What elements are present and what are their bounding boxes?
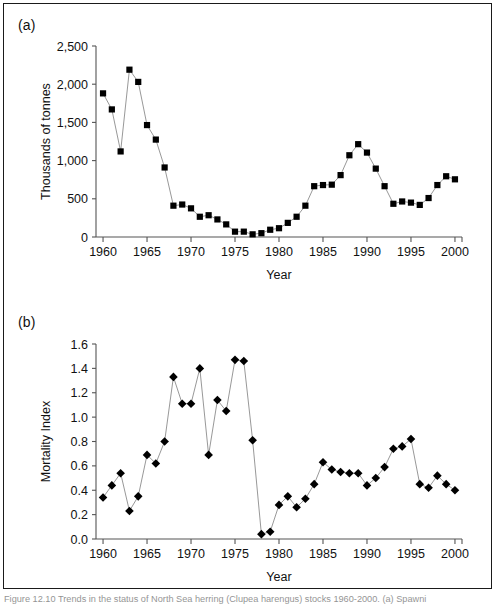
data-point-marker	[267, 227, 273, 233]
x-tick-label: 1985	[309, 547, 337, 561]
data-point-marker	[276, 225, 282, 231]
y-tick-label: 2,500	[57, 40, 88, 54]
data-point-marker	[417, 202, 423, 208]
data-point-marker	[424, 484, 433, 493]
data-point-marker	[345, 469, 354, 478]
data-point-marker	[257, 530, 266, 539]
y-tick-label: 1,000	[57, 154, 88, 168]
y-tick-label: 0.4	[71, 484, 88, 498]
y-tick-label: 1.6	[71, 338, 88, 352]
data-point-marker	[364, 149, 370, 155]
data-point-marker	[99, 493, 108, 502]
data-point-marker	[302, 203, 308, 209]
y-tick-label: 1,500	[57, 116, 88, 130]
data-point-marker	[425, 195, 431, 201]
data-point-marker	[346, 152, 352, 158]
y-tick-label: 0.2	[71, 508, 88, 522]
data-point-marker	[214, 216, 220, 222]
data-point-marker	[399, 198, 405, 204]
y-tick-label: 0.0	[71, 533, 88, 547]
data-point-marker	[179, 201, 185, 207]
data-point-marker	[390, 201, 396, 207]
data-point-marker	[213, 396, 222, 405]
x-tick-label: 1995	[397, 245, 425, 259]
data-point-marker	[135, 79, 141, 85]
data-point-marker	[294, 214, 300, 220]
data-point-marker	[126, 67, 132, 73]
x-tick-label: 1990	[353, 245, 381, 259]
data-point-marker	[231, 356, 240, 365]
x-tick-label: 1970	[177, 547, 205, 561]
data-point-marker	[134, 492, 143, 501]
data-point-marker	[116, 469, 125, 478]
data-point-marker	[222, 407, 231, 416]
x-tick-label: 2000	[441, 245, 469, 259]
data-point-marker	[354, 469, 363, 478]
data-point-marker	[258, 230, 264, 236]
data-point-marker	[408, 200, 414, 206]
data-point-marker	[223, 221, 229, 227]
x-tick-label: 1990	[353, 547, 381, 561]
figure-frame: (a) 05001,0001,5002,0002,500196019651970…	[3, 3, 492, 589]
data-point-marker	[100, 90, 106, 96]
chart-panel-b: (b) 0.00.20.40.60.81.01.21.41.6196019651…	[4, 300, 493, 588]
data-point-marker	[109, 106, 115, 112]
y-tick-label: 500	[67, 192, 88, 206]
data-point-marker	[187, 399, 196, 408]
data-point-marker	[248, 436, 257, 445]
x-tick-label: 1980	[265, 245, 293, 259]
x-tick-label: 1965	[133, 547, 161, 561]
data-point-marker	[329, 182, 335, 188]
x-axis-title: Year	[266, 570, 291, 584]
data-point-marker	[160, 437, 169, 446]
x-tick-label: 1975	[221, 547, 249, 561]
figure-caption: Figure 12.10 Trends in the status of Nor…	[4, 594, 497, 607]
data-point-marker	[311, 183, 317, 189]
data-point-marker	[380, 463, 389, 472]
x-tick-label: 1995	[397, 547, 425, 561]
data-point-marker	[232, 229, 238, 235]
y-axis-title: Thousands of tonnes	[39, 83, 53, 200]
data-point-marker	[118, 148, 124, 154]
data-point-marker	[415, 480, 424, 489]
data-point-marker	[108, 481, 117, 490]
data-point-marker	[196, 364, 205, 373]
x-tick-label: 2000	[441, 547, 469, 561]
mortality-index-chart: 0.00.20.40.60.81.01.21.41.61960196519701…	[4, 300, 493, 588]
data-point-marker	[169, 373, 178, 382]
y-tick-label: 1.2	[71, 386, 88, 400]
data-point-marker	[197, 214, 203, 220]
y-tick-label: 0	[81, 231, 88, 245]
data-point-marker	[355, 141, 361, 147]
data-point-marker	[434, 182, 440, 188]
data-point-marker	[206, 212, 212, 218]
y-tick-label: 2,000	[57, 78, 88, 92]
data-point-marker	[389, 445, 398, 454]
data-point-marker	[381, 183, 387, 189]
data-point-marker	[241, 229, 247, 235]
y-axis-title: Mortality Index	[39, 400, 53, 482]
data-point-marker	[451, 486, 460, 495]
data-point-marker	[285, 220, 291, 226]
series-line	[103, 70, 455, 235]
data-point-marker	[125, 507, 134, 516]
x-tick-label: 1965	[133, 245, 161, 259]
chart-panel-a: (a) 05001,0001,5002,0002,500196019651970…	[4, 4, 493, 300]
x-tick-label: 1960	[89, 547, 117, 561]
y-tick-label: 0.6	[71, 459, 88, 473]
y-tick-label: 0.8	[71, 435, 88, 449]
data-point-marker	[240, 357, 249, 366]
data-point-marker	[266, 527, 275, 536]
data-point-marker	[443, 173, 449, 179]
x-tick-label: 1975	[221, 245, 249, 259]
data-point-marker	[170, 203, 176, 209]
y-tick-label: 1.4	[71, 362, 88, 376]
data-point-marker	[310, 480, 319, 489]
data-point-marker	[204, 451, 213, 460]
y-tick-label: 1.0	[71, 411, 88, 425]
data-point-marker	[250, 231, 256, 237]
x-tick-label: 1980	[265, 547, 293, 561]
data-point-marker	[336, 468, 345, 477]
x-axis-title: Year	[266, 268, 291, 282]
data-point-marker	[153, 136, 159, 142]
